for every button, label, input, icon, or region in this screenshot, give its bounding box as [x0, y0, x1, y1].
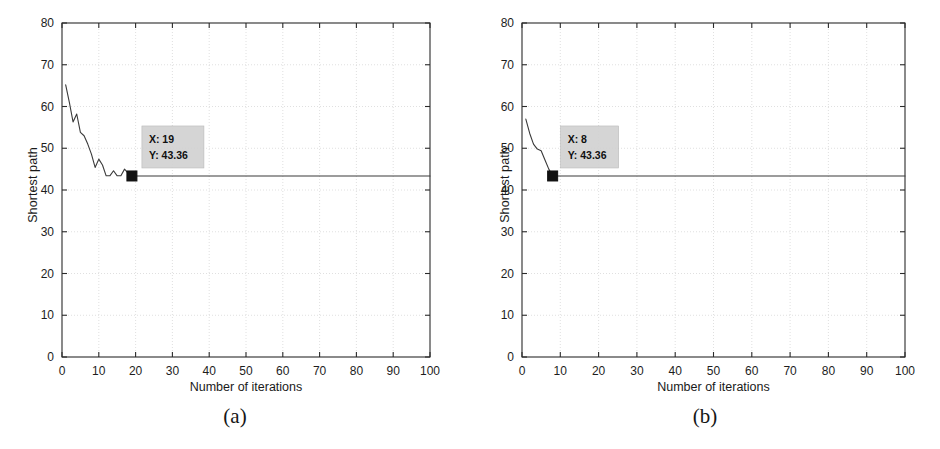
ticks-b: 010203040506070800102030405060708090100: [501, 16, 916, 378]
ticks-a: 010203040506070800102030405060708090100: [41, 16, 441, 378]
y-tick-label: 10: [41, 308, 55, 322]
panel-caption-b: (b): [470, 404, 940, 429]
x-axis-label-b: Number of iterations: [522, 380, 905, 394]
data-marker-b[interactable]: [548, 171, 558, 181]
datatip-x-label: X: 8: [568, 133, 587, 145]
x-tick-label: 60: [276, 364, 290, 378]
x-axis-label-a: Number of iterations: [62, 380, 430, 394]
x-tick-label: 30: [166, 364, 180, 378]
x-tick-label: 40: [203, 364, 217, 378]
data-series-line-a: [66, 85, 430, 176]
datatip-y-label: Y: 43.36: [149, 149, 188, 161]
panel-a: 010203040506070800102030405060708090100X…: [0, 0, 470, 449]
y-tick-label: 50: [41, 141, 55, 155]
x-tick-label: 50: [239, 364, 253, 378]
x-tick-label: 30: [630, 364, 644, 378]
x-tick-label: 20: [129, 364, 143, 378]
data-marker-a[interactable]: [127, 171, 137, 181]
y-tick-label: 80: [41, 16, 55, 30]
y-tick-label: 0: [507, 350, 514, 364]
y-tick-label: 30: [41, 225, 55, 239]
y-axis-label-b: Shortest path: [498, 130, 512, 240]
datatip-x-label: X: 19: [149, 133, 174, 145]
y-axis-label-a: Shortest path: [26, 130, 40, 240]
x-tick-label: 70: [783, 364, 797, 378]
y-tick-label: 70: [501, 58, 515, 72]
x-tick-label: 0: [519, 364, 526, 378]
y-tick-label: 0: [47, 350, 54, 364]
y-tick-label: 60: [41, 100, 55, 114]
x-tick-label: 10: [92, 364, 106, 378]
x-tick-label: 0: [59, 364, 66, 378]
x-tick-label: 40: [669, 364, 683, 378]
figure-two-panel-convergence: 010203040506070800102030405060708090100X…: [0, 0, 940, 449]
y-tick-label: 10: [501, 308, 515, 322]
y-tick-label: 80: [501, 16, 515, 30]
y-tick-label: 70: [41, 58, 55, 72]
x-tick-label: 20: [592, 364, 606, 378]
x-tick-label: 100: [895, 364, 915, 378]
datatip-y-label: Y: 43.36: [568, 149, 607, 161]
datatip-b[interactable]: X: 8Y: 43.36: [561, 126, 619, 168]
gridlines-b: [522, 23, 905, 357]
y-tick-label: 60: [501, 100, 515, 114]
panel-caption-a: (a): [0, 404, 470, 429]
x-tick-label: 100: [420, 364, 440, 378]
x-tick-label: 90: [860, 364, 874, 378]
plot-b: 010203040506070800102030405060708090100X…: [470, 0, 940, 400]
x-tick-label: 80: [350, 364, 364, 378]
x-tick-label: 60: [745, 364, 759, 378]
x-tick-label: 80: [822, 364, 836, 378]
plot-a: 010203040506070800102030405060708090100X…: [0, 0, 470, 400]
x-tick-label: 10: [554, 364, 568, 378]
x-tick-label: 70: [313, 364, 327, 378]
x-tick-label: 90: [387, 364, 401, 378]
x-tick-label: 50: [707, 364, 721, 378]
y-tick-label: 20: [41, 267, 55, 281]
datatip-a[interactable]: X: 19Y: 43.36: [142, 126, 204, 168]
y-tick-label: 20: [501, 267, 515, 281]
y-tick-label: 40: [41, 183, 55, 197]
gridlines-a: [62, 23, 430, 357]
panel-b: 010203040506070800102030405060708090100X…: [470, 0, 940, 449]
